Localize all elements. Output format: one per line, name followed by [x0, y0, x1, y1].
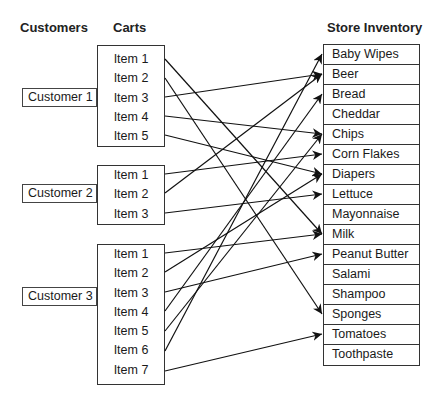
connection-arrows — [0, 0, 440, 403]
connection-arrow — [165, 234, 322, 253]
connection-arrow — [165, 254, 322, 292]
connection-arrow — [165, 135, 322, 174]
connection-arrow — [165, 116, 322, 134]
connection-arrow — [165, 74, 322, 193]
connection-arrow — [165, 54, 322, 351]
connection-arrow — [165, 174, 322, 272]
connection-arrow — [165, 334, 322, 371]
